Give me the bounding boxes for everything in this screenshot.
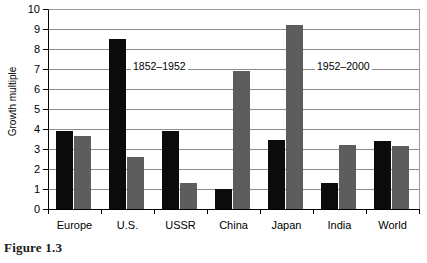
- bar-india-series-1: [321, 183, 338, 209]
- bar-u-s--series-1: [109, 39, 126, 209]
- x-tick-mark-5: [313, 209, 314, 214]
- x-tick-mark-0: [48, 209, 49, 214]
- bar-ussr-series-1: [162, 131, 179, 209]
- bar-china-series-1: [215, 189, 232, 209]
- gridline-8: [49, 49, 420, 50]
- x-tick-mark-7: [419, 209, 420, 214]
- x-tick-mark-1: [101, 209, 102, 214]
- y-tick-label-9: 9: [0, 24, 40, 35]
- figure-caption: Figure 1.3: [4, 240, 62, 256]
- x-tick-label-japan: Japan: [260, 219, 313, 231]
- bar-world-series-2: [392, 146, 409, 209]
- y-tick-label-1: 1: [0, 184, 40, 195]
- bar-japan-series-2: [286, 25, 303, 209]
- x-tick-label-world: World: [366, 219, 419, 231]
- gridline-0-baseline: [49, 209, 420, 210]
- plot-area: [48, 9, 420, 210]
- bar-europe-series-2: [74, 136, 91, 209]
- series-annotation-1: 1852–1952: [131, 60, 188, 72]
- x-tick-mark-6: [366, 209, 367, 214]
- x-tick-mark-2: [154, 209, 155, 214]
- figure-container: 0 1 2 3 4 5 6 7 8 9 10 Growth multiple: [0, 0, 427, 263]
- x-tick-label-ussr: USSR: [154, 219, 207, 231]
- bar-world-series-1: [374, 141, 391, 209]
- x-tick-mark-3: [207, 209, 208, 214]
- x-tick-label-u-s-: U.S.: [101, 219, 154, 231]
- plot-right-border: [419, 10, 420, 210]
- bar-ussr-series-2: [180, 183, 197, 209]
- bar-japan-series-1: [268, 140, 285, 209]
- series-annotation-2: 1952–2000: [315, 60, 372, 72]
- bar-india-series-2: [339, 145, 356, 209]
- y-tick-label-10: 10: [0, 4, 40, 15]
- x-tick-label-india: India: [313, 219, 366, 231]
- y-tick-label-0: 0: [0, 204, 40, 215]
- gridline-9: [49, 29, 420, 30]
- y-axis-title: Growth multiple: [7, 42, 18, 162]
- x-tick-label-china: China: [207, 219, 260, 231]
- x-tick-mark-4: [260, 209, 261, 214]
- bar-europe-series-1: [56, 131, 73, 209]
- plot-inner: [49, 10, 420, 210]
- bar-u-s--series-2: [127, 157, 144, 209]
- x-tick-label-europe: Europe: [48, 219, 101, 231]
- y-tick-label-2: 2: [0, 164, 40, 175]
- bar-china-series-2: [233, 71, 250, 209]
